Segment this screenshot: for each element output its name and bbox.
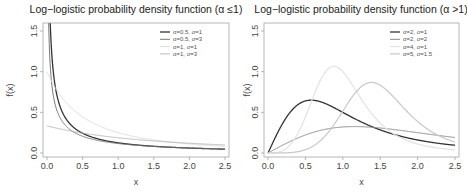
chart-panel-1: Log−logistic probability density functio…	[5, 0, 242, 187]
y-tick-label: 1.0	[29, 65, 39, 78]
plot-area	[268, 66, 455, 153]
x-tick-label: 2.0	[411, 161, 424, 171]
x-tick-label: 0.5	[299, 161, 312, 171]
x-tick-label: 1.5	[374, 161, 387, 171]
x-tick-label: 2.0	[183, 161, 196, 171]
series-line-2	[47, 0, 225, 149]
x-tick-label: 0.5	[76, 161, 89, 171]
x-tick-label: 1.0	[337, 161, 350, 171]
legend-entry: α=0.5, σ=1	[173, 29, 203, 35]
series-line-2	[268, 127, 455, 153]
x-tick-label: 2.5	[449, 161, 462, 171]
x-tick-label: 0.0	[41, 161, 54, 171]
legend-entry: α=0.5, σ=3	[173, 36, 203, 42]
chart-title: Log−logistic probability density functio…	[254, 3, 467, 15]
legend-entry: α=4, σ=1	[403, 44, 428, 50]
x-tick-label: 1.5	[148, 161, 161, 171]
legend-entry: α=2, σ=2	[403, 36, 428, 42]
legend-entry: α=5, σ=1.5	[403, 51, 433, 57]
chart-title: Log−logistic probability density functio…	[30, 3, 243, 15]
chart-figure: Log−logistic probability density functio…	[0, 0, 467, 194]
plot-area	[47, 0, 225, 149]
x-tick-label: 1.0	[112, 161, 125, 171]
x-axis-label: x	[359, 177, 364, 187]
y-tick-label: 0.0	[250, 147, 260, 160]
series-line-1	[47, 0, 225, 149]
series-line-4	[268, 82, 455, 153]
legend-entry: α=1, σ=1	[173, 44, 198, 50]
y-tick-label: 0.5	[250, 106, 260, 119]
legend-entry: α=2, σ=1	[403, 29, 428, 35]
y-tick-label: 0.0	[29, 147, 39, 160]
y-tick-label: 0.5	[29, 106, 39, 119]
legend: α=2, σ=1α=2, σ=2α=4, σ=1α=5, σ=1.5	[390, 29, 433, 57]
series-line-4	[47, 126, 225, 145]
y-axis-label: f(x)	[5, 84, 15, 97]
series-line-3	[47, 72, 225, 147]
y-tick-label: 1.5	[29, 25, 39, 38]
y-tick-label: 1.5	[250, 25, 260, 38]
chart-panel-2: Log−logistic probability density functio…	[242, 3, 467, 187]
x-tick-label: 2.5	[219, 161, 232, 171]
plot-frame	[264, 23, 459, 157]
x-tick-label: 0.0	[262, 161, 275, 171]
y-tick-label: 1.0	[250, 65, 260, 78]
legend-entry: α=1, σ=3	[173, 51, 198, 57]
legend: α=0.5, σ=1α=0.5, σ=3α=1, σ=1α=1, σ=3	[160, 29, 203, 57]
y-axis-label: f(x)	[242, 84, 252, 97]
x-axis-label: x	[134, 177, 139, 187]
series-line-3	[268, 66, 455, 153]
